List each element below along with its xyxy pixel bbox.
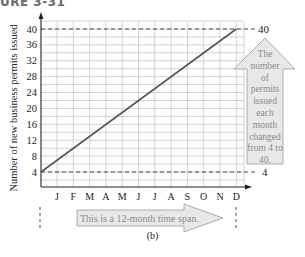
vertical-annotation-arrow: Thenumberofpermitsissuedeachmonthchanged… — [234, 38, 295, 165]
vertical-arrow-text-line: of — [261, 73, 270, 83]
x-tick: D — [233, 191, 240, 202]
y-tick: 28 — [27, 71, 38, 82]
x-tick: J — [55, 191, 59, 202]
horizontal-arrow-text: This is a 12-month time span. — [80, 213, 199, 224]
y-tick: 16 — [27, 119, 38, 130]
vertical-arrow-text-line: number — [250, 61, 280, 71]
x-tick: J — [137, 191, 141, 202]
line-chart: 404 481216202428323640 JFMAMJJASOND Numb… — [0, 0, 305, 257]
y-tick: 24 — [27, 87, 38, 98]
vertical-arrow-text-line: The — [258, 49, 273, 59]
y-tick: 8 — [32, 151, 37, 162]
x-tick: O — [200, 191, 207, 202]
x-tick-labels: JFMAMJJASOND — [55, 191, 240, 202]
vertical-arrow-text-line: each — [256, 108, 274, 118]
right-label-40: 40 — [258, 23, 270, 35]
y-tick: 32 — [27, 55, 38, 66]
vertical-arrow-text-line: issued — [253, 96, 277, 106]
x-tick: A — [102, 191, 110, 202]
y-tick-labels: 481216202428323640 — [27, 24, 38, 178]
figure-caption: (b) — [0, 230, 305, 241]
y-tick: 40 — [27, 24, 38, 35]
y-tick: 4 — [32, 167, 38, 178]
x-tick: F — [71, 191, 77, 202]
vertical-arrow-text-line: changed — [249, 132, 281, 142]
x-tick: S — [185, 191, 191, 202]
y-tick: 12 — [27, 135, 38, 146]
vertical-arrow-text-line: month — [253, 120, 278, 130]
y-tick: 20 — [27, 103, 38, 114]
x-tick: N — [216, 191, 223, 202]
y-tick: 36 — [27, 39, 38, 50]
x-tick: M — [85, 191, 94, 202]
vertical-arrow-text-line: permits — [251, 84, 280, 94]
x-tick: M — [118, 191, 127, 202]
x-tick: A — [167, 191, 175, 202]
y-axis-label: Number of new business permits issued — [8, 24, 19, 192]
vertical-arrow-text-line: from 4 to — [247, 143, 283, 153]
vertical-arrow-text-line: 40. — [259, 155, 271, 165]
x-tick: J — [153, 191, 157, 202]
right-label-4: 4 — [262, 166, 268, 178]
horizontal-annotation-arrow: This is a 12-month time span. — [40, 204, 236, 232]
